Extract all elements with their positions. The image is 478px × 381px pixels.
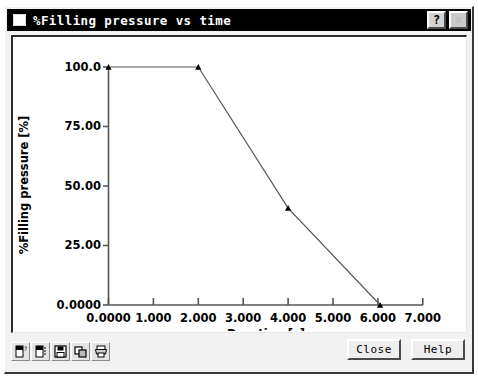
window-system-icon[interactable] — [13, 14, 26, 26]
svg-text:?: ? — [24, 345, 27, 352]
x-tick-label: 3.000 — [225, 311, 261, 325]
y-tick-label: 25.00 — [65, 238, 101, 252]
y-tick-label: 100.0 — [65, 60, 101, 74]
window-title: %Filling pressure vs time — [33, 13, 231, 28]
data-series-group — [105, 64, 383, 308]
y-tick-label: 50.00 — [65, 179, 101, 193]
help-button[interactable]: Help — [411, 339, 465, 360]
title-bar: %Filling pressure vs time ? × — [7, 9, 471, 31]
toolbar: ? — [11, 342, 110, 361]
copy-icon[interactable] — [71, 342, 90, 361]
chart-panel: %Filling pressure [%] 100.0 75.00 50.00 … — [11, 35, 467, 333]
dialog-buttons: Close Help — [347, 339, 465, 360]
x-tick-label: 6.000 — [360, 311, 396, 325]
close-button[interactable]: Close — [347, 339, 401, 360]
x-tick-label: 1.000 — [135, 311, 171, 325]
x-tick-label: 2.000 — [180, 311, 216, 325]
data-point-marker — [285, 205, 291, 211]
page-properties-icon[interactable]: ? — [11, 342, 30, 361]
help-titlebar-button[interactable]: ? — [427, 11, 446, 29]
bottom-bar: ? — [7, 334, 471, 370]
plot-window: %Filling pressure vs time ? × %Filling p… — [4, 6, 474, 374]
y-axis-label: %Filling pressure [%] — [17, 116, 31, 255]
x-tick-label: 4.000 — [270, 311, 306, 325]
close-icon[interactable]: × — [449, 11, 468, 29]
y-tick-label: 0.0000 — [57, 298, 101, 312]
x-tick-label: 0.0000 — [86, 311, 130, 325]
x-tick-label: 7.000 — [405, 311, 441, 325]
save-icon[interactable] — [51, 342, 70, 361]
x-axis-label: Duration [s] — [227, 327, 305, 331]
print-icon[interactable] — [91, 342, 110, 361]
x-tick-label: 5.000 — [315, 311, 351, 325]
y-tick-label: 75.00 — [65, 119, 101, 133]
data-markers — [105, 64, 383, 308]
data-line — [109, 67, 381, 305]
filling-pressure-chart: %Filling pressure [%] 100.0 75.00 50.00 … — [13, 37, 465, 331]
page-setup-icon[interactable] — [31, 342, 50, 361]
